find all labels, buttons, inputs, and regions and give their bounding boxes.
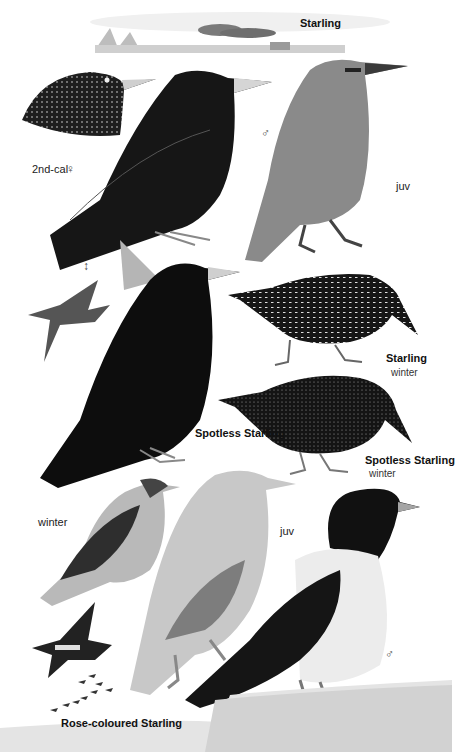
rose-coloured-flock-figure bbox=[50, 674, 113, 712]
spotless-starling-figure bbox=[40, 264, 240, 488]
starling-head-figure bbox=[22, 72, 156, 136]
label-spotless-winter-sub: winter bbox=[369, 469, 396, 479]
label-spotless-winter: Spotless Starling bbox=[365, 455, 455, 466]
male-symbol-icon: ♂ bbox=[261, 127, 270, 139]
female-symbol-icon: ♀ bbox=[66, 163, 75, 175]
label-2nd-cal: 2nd-cal bbox=[32, 164, 68, 175]
label-starling-winter-sub: winter bbox=[391, 368, 418, 378]
label-rose-juv: juv bbox=[280, 526, 294, 537]
size-arrow-icon: ↕ bbox=[83, 260, 89, 272]
rose-coloured-flight-figure bbox=[32, 602, 112, 678]
label-spotless-starling: Spotless Starling bbox=[195, 428, 285, 439]
flock-landscape-figure bbox=[90, 12, 390, 53]
label-rose-coloured-starling: Rose-coloured Starling bbox=[61, 718, 182, 729]
title-starling: Starling bbox=[300, 18, 341, 29]
label-rose-winter: winter bbox=[38, 517, 67, 528]
male-symbol-icon: ♂ bbox=[385, 648, 394, 660]
starling-juv-figure bbox=[245, 60, 408, 262]
label-starling-winter: Starling bbox=[386, 353, 427, 364]
label-juv-starling: juv bbox=[396, 181, 410, 192]
starling-flight-figure bbox=[28, 280, 110, 362]
